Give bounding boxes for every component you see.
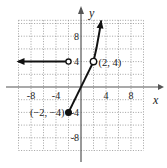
axes: x y [6, 6, 164, 162]
x-tick-label: -4 [52, 90, 60, 101]
open-endpoint [66, 59, 71, 64]
open-endpoint [90, 58, 96, 64]
x-axis-label: x [152, 93, 159, 107]
x-tick-label: 8 [129, 90, 134, 101]
y-axis-label: y [88, 6, 95, 20]
y-tick-label: 4 [74, 56, 79, 67]
up-arrow-icon [97, 20, 104, 28]
point-label: (2, 4) [99, 57, 122, 69]
y-tick-label: -8 [71, 132, 79, 143]
y-axis-arrow-icon [78, 6, 84, 14]
point-label: (−2, −4) [30, 107, 65, 119]
closed-endpoint [66, 110, 72, 116]
x-axis-arrow-icon [158, 84, 164, 90]
piecewise-graph: x y -8-44884-4-8 (2, 4)(−2, −4) [0, 0, 167, 168]
x-tick-label: -8 [27, 90, 35, 101]
y-tick-label: 8 [74, 31, 79, 42]
left-arrow-icon [17, 58, 25, 65]
x-tick-label: 4 [104, 90, 109, 101]
